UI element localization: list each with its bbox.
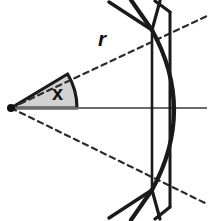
diagram-canvas: r x (0, 0, 209, 221)
spur-segments-top (109, 0, 170, 30)
angle-label: x (52, 83, 63, 103)
dashed-radius-ray-lower (11, 108, 207, 204)
radius-label: r (98, 28, 106, 49)
spur-segments-bottom (109, 190, 170, 220)
focus-point-dot (7, 104, 15, 112)
dashed-radius-ray-upper (11, 16, 207, 108)
